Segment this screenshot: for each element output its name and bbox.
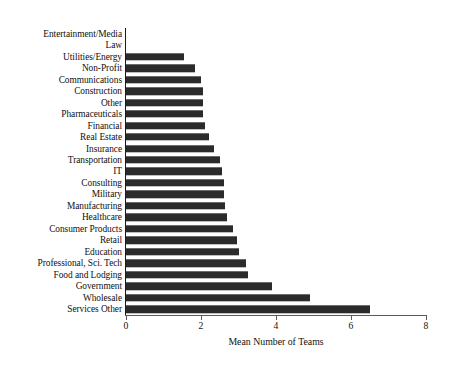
bar-row: Services Other [0,304,460,315]
bar-row: IT [0,166,460,177]
category-label: Food and Lodging [54,270,122,280]
bar [126,168,222,175]
bar-row: Construction [0,85,460,96]
bar [126,110,203,117]
category-label: Insurance [86,144,122,154]
bar-row: Financial [0,120,460,131]
bar-row: Wholesale [0,292,460,303]
bar [126,122,205,129]
x-axis-title: Mean Number of Teams [126,336,426,348]
bar-row: Retail [0,235,460,246]
bar-row: Communications [0,74,460,85]
category-label: Utilities/Energy [63,52,122,62]
bar [126,294,310,301]
category-label: Other [101,98,122,108]
category-label: Transportation [68,155,122,165]
bar-row: Pharmaceuticals [0,108,460,119]
bar-row: Manufacturing [0,200,460,211]
x-tick-label: 6 [349,320,354,332]
category-label: Government [76,281,122,291]
category-label: Non-Profit [82,63,122,73]
bar [126,271,248,278]
bar [126,260,246,267]
bar-row: Utilities/Energy [0,51,460,62]
bar-row: Military [0,189,460,200]
x-tick-label: 2 [199,320,204,332]
category-label: Services Other [67,304,122,314]
category-label: Communications [59,75,122,85]
bar-row: Real Estate [0,131,460,142]
bar [126,248,239,255]
bar [126,99,203,106]
bar [126,202,225,209]
bar-row: Other [0,97,460,108]
category-label: IT [113,166,122,176]
x-tick-mark [276,315,277,320]
category-label: Real Estate [80,132,122,142]
x-tick-mark [126,315,127,320]
bar [126,53,184,60]
bar [126,237,237,244]
bar-row: Education [0,246,460,257]
bar-row: Food and Lodging [0,269,460,280]
bar-row: Professional, Sci. Tech [0,258,460,269]
category-label: Manufacturing [67,201,122,211]
x-tick-label: 4 [274,320,279,332]
bar [126,225,233,232]
category-label: Law [105,40,122,50]
bar-row: Insurance [0,143,460,154]
bar-rows: Entertainment/MediaLawUtilities/EnergyNo… [0,28,460,315]
bar [126,145,214,152]
bar-row: Law [0,39,460,50]
x-tick-mark [351,315,352,320]
bar-row: Consulting [0,177,460,188]
bar [126,191,224,198]
bar-row: Entertainment/Media [0,28,460,39]
bar-chart: Entertainment/MediaLawUtilities/EnergyNo… [0,0,460,365]
category-label: Consulting [81,178,122,188]
bar-row: Government [0,281,460,292]
category-label: Retail [100,235,122,245]
bar [126,87,203,94]
x-tick-label: 8 [424,320,429,332]
category-label: Pharmaceuticals [61,109,122,119]
bar-row: Consumer Products [0,223,460,234]
category-label: Financial [88,121,122,131]
x-tick-label: 0 [124,320,129,332]
bar [126,214,227,221]
x-tick-mark [426,315,427,320]
bar-row: Healthcare [0,212,460,223]
bar-row: Transportation [0,154,460,165]
category-label: Military [92,189,122,199]
bar [126,179,224,186]
bar [126,306,370,313]
category-label: Professional, Sci. Tech [38,258,122,268]
bar [126,133,209,140]
category-label: Entertainment/Media [43,29,122,39]
bar-row: Non-Profit [0,62,460,73]
category-label: Healthcare [82,212,122,222]
category-label: Education [84,247,122,257]
bar [126,156,220,163]
category-label: Construction [74,86,122,96]
category-label: Consumer Products [49,224,122,234]
bar [126,283,272,290]
bar [126,76,201,83]
bar [126,64,195,71]
category-label: Wholesale [83,293,122,303]
x-tick-mark [201,315,202,320]
